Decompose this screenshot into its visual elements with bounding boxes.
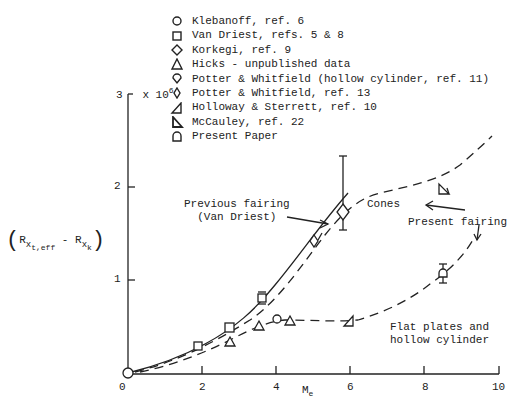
annotation-present-fairing: Present fairing	[408, 216, 507, 229]
marker-klebanoff	[123, 368, 133, 378]
circle-marker-icon	[170, 15, 184, 27]
flagged-triangle-marker-icon	[170, 116, 184, 128]
pentagon-marker-icon	[170, 73, 184, 85]
legend: Klebanoff, ref. 6 Van Driest, refs. 5 & …	[170, 14, 489, 144]
legend-item-potter-13: Potter & Whitfield, ref. 13	[170, 86, 489, 100]
half-round-marker-icon	[170, 130, 184, 142]
y-tick-1: 1	[114, 273, 121, 285]
marker-korkegi	[337, 204, 349, 220]
legend-item-holloway: Holloway & Sterrett, ref. 10	[170, 100, 489, 114]
marker-hicks	[254, 321, 264, 330]
right-triangle-marker-icon	[170, 102, 184, 114]
annotation-cones: Cones	[367, 198, 400, 211]
annotation-flat-plates: Flat plates and hollow cylinder	[390, 321, 489, 347]
marker-van-driest	[225, 323, 234, 332]
marker-van-driest	[194, 342, 202, 350]
diamond-marker-icon	[170, 44, 184, 56]
x-tick-6: 6	[347, 381, 354, 393]
marker-klebanoff	[273, 315, 281, 323]
legend-item-korkegi: Korkegi, ref. 9	[170, 43, 489, 57]
legend-item-mccauley: McCauley, ref. 22	[170, 115, 489, 129]
y-tick-2: 2	[114, 180, 121, 192]
annotation-previous-fairing: Previous fairing (Van Driest)	[184, 198, 290, 224]
legend-item-hicks: Hicks - unpublished data	[170, 57, 489, 71]
y-axis-label: (Rxt,eff - Rxk)	[6, 228, 105, 253]
y-axis-multiplier: 3 x 106	[116, 86, 174, 101]
x-tick-2: 2	[199, 381, 206, 393]
x-tick-4: 4	[273, 381, 280, 393]
triangle-marker-icon	[170, 58, 184, 70]
marker-van-driest	[258, 294, 266, 302]
legend-item-present-paper: Present Paper	[170, 129, 489, 143]
x-tick-10: 10	[492, 381, 505, 393]
legend-item-van-driest: Van Driest, refs. 5 & 8	[170, 28, 489, 42]
square-marker-icon	[170, 30, 184, 42]
x-tick-8: 8	[422, 381, 429, 393]
legend-item-klebanoff: Klebanoff, ref. 6	[170, 14, 489, 28]
marker-present-paper	[439, 269, 447, 277]
x-axis-label: Me	[302, 384, 313, 398]
legend-item-potter-hollow: Potter & Whitfield (hollow cylinder, ref…	[170, 72, 489, 86]
x-tick-0: 0	[119, 381, 126, 393]
